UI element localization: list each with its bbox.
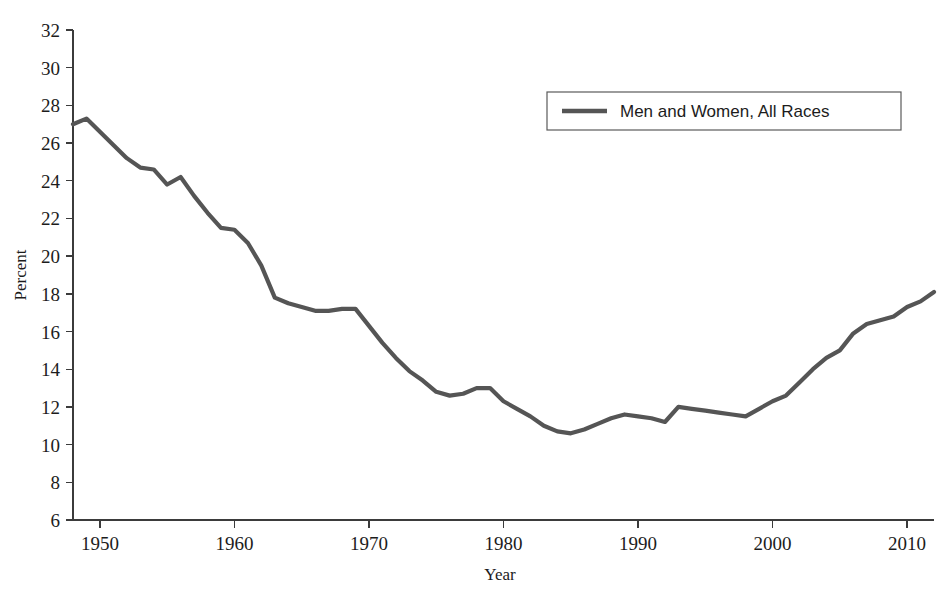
y-tick-label: 10: [41, 435, 60, 456]
x-axis-tick-marks: [100, 520, 907, 528]
x-tick-label: 1980: [485, 533, 523, 554]
y-tick-label: 16: [41, 322, 60, 343]
x-axis-title: Year: [484, 565, 516, 584]
y-tick-label: 8: [51, 472, 61, 493]
y-tick-label: 26: [41, 133, 60, 154]
y-tick-label: 14: [41, 359, 61, 380]
x-tick-label: 1970: [350, 533, 388, 554]
data-series-group: [73, 119, 934, 434]
y-tick-label: 18: [41, 284, 60, 305]
x-tick-label: 2000: [754, 533, 792, 554]
chart-legend[interactable]: Men and Women, All Races: [547, 92, 901, 130]
x-tick-label: 1950: [81, 533, 119, 554]
x-axis-tick-labels: 1950196019701980199020002010: [81, 533, 926, 554]
x-tick-label: 1960: [215, 533, 253, 554]
y-axis-title: Percent: [11, 249, 30, 300]
x-tick-label: 2010: [888, 533, 926, 554]
y-tick-label: 6: [51, 510, 61, 531]
y-axis-tick-marks: [66, 30, 73, 520]
y-tick-label: 28: [41, 95, 60, 116]
legend-entry-label: Men and Women, All Races: [620, 102, 829, 121]
y-axis-tick-labels: 68101214161820222426283032: [41, 20, 61, 531]
y-tick-label: 24: [41, 171, 61, 192]
y-tick-label: 20: [41, 246, 60, 267]
y-tick-label: 32: [41, 20, 60, 41]
series-line-men-and-women-all-races: [73, 119, 934, 434]
chart-container: 68101214161820222426283032 1950196019701…: [0, 0, 948, 597]
y-tick-label: 30: [41, 58, 60, 79]
x-tick-label: 1990: [619, 533, 657, 554]
y-tick-label: 22: [41, 208, 60, 229]
y-tick-label: 12: [41, 397, 60, 418]
line-chart: 68101214161820222426283032 1950196019701…: [0, 0, 948, 597]
